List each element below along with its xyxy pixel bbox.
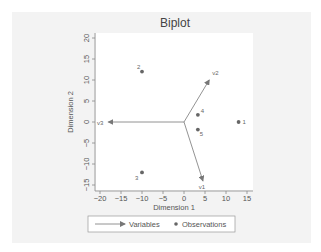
y-axis-ticks: −15−10−505101520 [82,34,95,192]
observation-point-2 [140,70,144,74]
y-tick-label: −15 [82,179,91,192]
y-axis-label: Dimension 2 [66,91,75,133]
y-tick-label: 5 [82,99,91,103]
y-tick-label: −5 [82,139,91,148]
legend-label-variables: Variables [129,220,160,229]
x-tick-label: −20 [94,194,107,203]
x-tick-label: 15 [243,194,251,203]
legend: Variables Observations [88,216,235,232]
dot-icon [174,222,178,226]
vector-label: v1 [199,184,206,190]
x-tick-label: −15 [115,194,128,203]
y-tick-label: 10 [82,76,91,84]
chart-title: Biplot [160,16,191,30]
x-tick-label: 0 [182,194,186,203]
x-tick-label: 10 [222,194,230,203]
observation-point-3 [140,171,144,175]
y-tick-label: 0 [82,120,91,124]
x-tick-label: −5 [159,194,168,203]
vector-label: v3 [97,120,104,126]
plot-area [96,33,253,190]
x-tick-label: −10 [136,194,149,203]
x-axis-label: Dimension 1 [153,203,195,212]
x-tick-label: 5 [203,194,207,203]
vector-label: v2 [212,70,219,76]
observation-point-1 [237,120,241,124]
y-tick-label: 15 [82,55,91,63]
y-tick-label: 20 [82,34,91,42]
biplot-chart: Biplot −20−15−10−5051015 −15−10−50510152… [0,0,321,252]
y-tick-label: −10 [82,158,91,171]
legend-label-observations: Observations [182,220,226,229]
x-axis-ticks: −20−15−10−5051015 [94,191,252,203]
observation-point-4 [196,113,200,117]
